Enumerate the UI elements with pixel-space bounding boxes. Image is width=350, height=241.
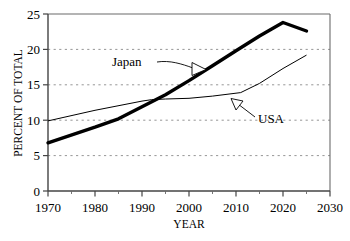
x-tick-label-2030: 2030	[317, 200, 343, 215]
plot-area-background	[48, 14, 330, 191]
x-axis-ticks	[48, 191, 330, 197]
x-tick-label-2010: 2010	[223, 200, 249, 215]
y-tick-label-25: 25	[27, 7, 40, 22]
x-tick-label-1970: 1970	[35, 200, 61, 215]
chart-container: 0 5 10 15 20 25 1970 1980 1990 2000 2010…	[0, 0, 350, 241]
y-axis-title: PERCENT OF TOTAL	[12, 49, 24, 157]
x-tick-label-2020: 2020	[270, 200, 296, 215]
series-label-japan: Japan	[112, 54, 142, 69]
x-tick-label-1990: 1990	[129, 200, 155, 215]
y-tick-label-20: 20	[27, 42, 40, 57]
y-tick-label-15: 15	[27, 77, 40, 92]
y-tick-label-10: 10	[27, 113, 40, 128]
y-tick-label-0: 0	[34, 184, 41, 199]
series-label-usa: USA	[258, 111, 285, 126]
y-axis-ticks	[43, 14, 48, 191]
line-chart: 0 5 10 15 20 25 1970 1980 1990 2000 2010…	[0, 0, 350, 241]
x-axis-title: YEAR	[173, 218, 205, 230]
x-tick-label-2000: 2000	[176, 200, 202, 215]
x-tick-label-1980: 1980	[82, 200, 108, 215]
y-tick-label-5: 5	[34, 148, 41, 163]
